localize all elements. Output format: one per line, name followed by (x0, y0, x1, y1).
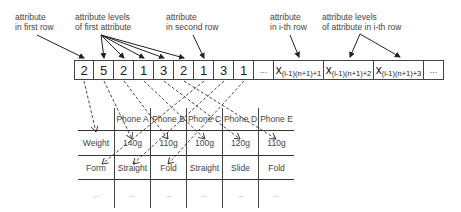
label-line: attribute levels (75, 12, 131, 22)
decoded-phone-table: Phone A Phone B Phone C Phone D Phone E … (78, 108, 294, 208)
sequence-cell: 1 (194, 60, 214, 80)
label-line: of first attribute (75, 22, 131, 32)
table-cell: ... (258, 180, 294, 208)
table-cell: 110g (150, 131, 186, 155)
arrow-ith-row (290, 35, 299, 57)
table-row: Form Straight Fold Straight Slide Fold (78, 155, 294, 179)
table-cell: ... (222, 180, 258, 208)
table-cell: 110g (258, 131, 294, 155)
table-cell: Weight (78, 131, 114, 155)
sequence-x-term: x(i-1)(n+1)+3 (374, 60, 424, 80)
label-levels-first-attribute: attribute levels of first attribute (75, 12, 131, 32)
arrow-first-row (37, 35, 84, 58)
encoding-sequence: 2 5 2 1 3 2 1 3 1 ... x(i-1)(n+1)+1 x(i-… (74, 60, 444, 80)
sequence-x-term: x(i-1)(n+1)+2 (324, 60, 374, 80)
label-attribute-second-row: attribute in second row (166, 12, 218, 32)
arrow-level (101, 35, 184, 58)
table-cell: Form (78, 156, 114, 179)
table-cell: ... (186, 180, 222, 208)
sequence-cell: 2 (74, 60, 94, 80)
table-cell: Slide (222, 156, 258, 179)
arrow-level (101, 35, 124, 58)
arrow-level (101, 35, 144, 58)
label-line: in i-th row (270, 22, 307, 32)
table-cell: 120g (222, 131, 258, 155)
table-cell: Straight (186, 156, 222, 179)
table-cell: 100g (186, 131, 222, 155)
label-line: attribute (15, 12, 54, 22)
table-cell: Fold (150, 156, 186, 179)
sequence-cell: 3 (214, 60, 234, 80)
sequence-cell: 3 (154, 60, 174, 80)
table-cell: 140g (114, 131, 150, 155)
label-line: in second row (166, 22, 218, 32)
label-attribute-ith-row: attribute in i-th row (270, 12, 307, 32)
label-line: attribute levels (322, 12, 401, 22)
label-line: attribute (166, 12, 218, 22)
table-cell: Straight (114, 156, 150, 179)
label-levels-ith-attribute: attribute levels of attribute in i-th ro… (322, 12, 401, 32)
arrow-ith-level (350, 34, 360, 57)
arrow-second-row (193, 35, 204, 58)
table-cell: ... (78, 180, 114, 208)
annotation-arrows (37, 34, 400, 58)
sequence-cell: 1 (134, 60, 154, 80)
table-cell: ... (150, 180, 186, 208)
table-header-cell: Phone E (258, 108, 294, 130)
table-header-cell: Phone D (222, 108, 258, 130)
arrow-level (101, 35, 164, 58)
table-cell: ... (114, 180, 150, 208)
label-line: in first row (15, 22, 54, 32)
label-line: attribute (270, 12, 307, 22)
x-subscript: (i-1)(n+1)+2 (332, 69, 372, 78)
table-header-cell (78, 108, 114, 130)
table-header-cell: Phone B (150, 108, 186, 130)
table-header-cell: Phone C (186, 108, 222, 130)
label-line: of attribute in i-th row (322, 22, 401, 32)
table-row: Weight 140g 110g 100g 120g 110g (78, 130, 294, 155)
table-row: ... ... ... ... ... ... (78, 179, 294, 208)
sequence-ellipsis: ... (254, 60, 274, 80)
x-subscript: (i-1)(n+1)+3 (382, 69, 422, 78)
arrow-ith-level (360, 34, 400, 57)
sequence-x-term: x(i-1)(n+1)+1 (274, 60, 324, 80)
sequence-cell: 2 (174, 60, 194, 80)
table-header-cell: Phone A (114, 108, 150, 130)
table-header-row: Phone A Phone B Phone C Phone D Phone E (78, 108, 294, 130)
label-attribute-first-row: attribute in first row (15, 12, 54, 32)
sequence-cell: 5 (94, 60, 114, 80)
sequence-cell: 1 (234, 60, 254, 80)
table-cell: Fold (258, 156, 294, 179)
x-subscript: (i-1)(n+1)+1 (282, 69, 322, 78)
arrow-level (101, 35, 104, 58)
sequence-cell: 2 (114, 60, 134, 80)
sequence-trailing-ellipsis: ... (424, 60, 444, 80)
